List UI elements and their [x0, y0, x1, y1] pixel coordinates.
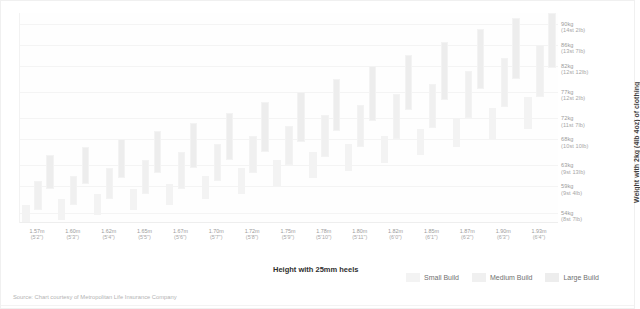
legend-label: Small Build	[424, 274, 459, 281]
data-bar	[548, 13, 555, 68]
y-axis-title: Weight with 2kg (4lb 4oz) of clothing	[633, 43, 640, 203]
data-bar	[118, 139, 125, 178]
y-axis-tick: 54kg(8st 7lb)	[561, 210, 582, 223]
x-axis-tick: 1.78m(5'10")	[306, 228, 342, 241]
data-bar	[321, 115, 328, 157]
data-bar	[273, 160, 280, 186]
data-bar	[465, 71, 472, 118]
y-axis-tick: 72kg(11st 7lb)	[561, 115, 585, 128]
data-bar	[154, 131, 161, 173]
data-bar	[34, 181, 41, 210]
data-bar	[429, 84, 436, 129]
gridline	[20, 186, 558, 187]
chart-legend: Small BuildMedium BuildLarge Build	[406, 273, 599, 282]
data-bar	[58, 199, 65, 220]
x-axis-tick: 1.82m(6'0")	[378, 228, 414, 241]
data-bar	[94, 194, 101, 215]
y-axis-tick: 63kg(9st 13lb)	[561, 162, 585, 175]
data-bar	[345, 144, 352, 170]
data-bar	[536, 45, 543, 98]
y-axis-tick: 90kg(14st 2lb)	[561, 21, 585, 34]
x-axis-tick: 1.70m(5'7")	[198, 228, 234, 241]
data-bar	[417, 129, 424, 155]
data-bar	[142, 160, 149, 194]
y-axis-tick: 86kg(13st 7lb)	[561, 42, 585, 55]
data-bar	[357, 105, 364, 147]
legend-label: Large Build	[563, 274, 598, 281]
x-axis-tick: 1.60m(5'3")	[55, 228, 91, 241]
x-axis-tick: 1.65m(5'5")	[127, 228, 163, 241]
x-axis-tick: 1.87m(6'2")	[449, 228, 485, 241]
x-axis-tick: 1.72m(5'8")	[234, 228, 270, 241]
legend-item[interactable]: Large Build	[545, 273, 598, 282]
data-bar	[309, 152, 316, 178]
gridline	[20, 118, 558, 119]
data-bar	[489, 108, 496, 140]
data-bar	[249, 136, 256, 173]
x-axis-tick: 1.57m(5'2")	[19, 228, 55, 241]
data-bar	[285, 126, 292, 165]
x-axis-tick: 1.90m(6'3")	[485, 228, 521, 241]
data-bar	[202, 176, 209, 200]
gridline	[20, 92, 558, 93]
data-bar	[178, 152, 185, 189]
x-axis-tick: 1.93m(6'4")	[521, 228, 557, 241]
data-bar	[453, 118, 460, 147]
data-bar	[441, 42, 448, 100]
data-bar	[70, 176, 77, 205]
data-bar	[297, 92, 304, 142]
y-axis-tick: 59kg(9st 4lb)	[561, 183, 582, 196]
data-bar	[333, 79, 340, 132]
footer-divider	[1, 305, 634, 306]
legend-item[interactable]: Small Build	[406, 273, 459, 282]
x-axis-tick: 1.80m(5'11")	[342, 228, 378, 241]
y-axis-tick: 82kg(12st 12lb)	[561, 63, 589, 76]
x-axis-tick-labels: 1.57m(5'2")1.60m(5'3")1.62m(5'4")1.65m(5…	[19, 228, 557, 250]
y-axis-tick: 77kg(12st 2lb)	[561, 89, 585, 102]
data-bar	[405, 55, 412, 110]
data-bar	[22, 205, 29, 223]
data-bar	[512, 18, 519, 78]
data-bar	[238, 168, 245, 194]
y-axis-tick: 68kg(10st 10lb)	[561, 136, 589, 149]
x-axis-tick: 1.62m(5'4")	[91, 228, 127, 241]
x-axis-tick: 1.67m(5'6")	[162, 228, 198, 241]
data-bar	[393, 94, 400, 139]
plot-area	[19, 13, 558, 223]
gridline	[20, 165, 558, 166]
data-bar	[369, 66, 376, 121]
data-bar	[261, 102, 268, 152]
data-bar	[130, 189, 137, 210]
data-bar	[82, 147, 89, 184]
data-bar	[501, 58, 508, 108]
data-bar	[477, 29, 484, 89]
data-bar	[214, 144, 221, 181]
data-bar	[524, 97, 531, 129]
gridline	[20, 24, 558, 25]
y-axis-tick-labels: 90kg(14st 2lb)86kg(13st 7lb)82kg(12st 12…	[561, 13, 609, 225]
data-bar	[106, 168, 113, 200]
x-axis-tick: 1.85m(6'1")	[414, 228, 450, 241]
x-axis-tick: 1.75m(5'9")	[270, 228, 306, 241]
legend-swatch-icon	[472, 273, 486, 282]
legend-item[interactable]: Medium Build	[472, 273, 532, 282]
legend-swatch-icon	[545, 273, 559, 282]
data-bar	[46, 155, 53, 189]
data-bar	[166, 184, 173, 205]
data-bar	[381, 136, 388, 162]
x-axis-baseline	[20, 222, 558, 223]
data-bar	[226, 113, 233, 160]
source-caption: Source: Chart courtesy of Metropolitan L…	[13, 294, 177, 300]
x-axis-title: Height with 25mm heels	[273, 265, 358, 274]
data-bar	[190, 123, 197, 168]
legend-label: Medium Build	[490, 274, 532, 281]
legend-swatch-icon	[406, 273, 420, 282]
